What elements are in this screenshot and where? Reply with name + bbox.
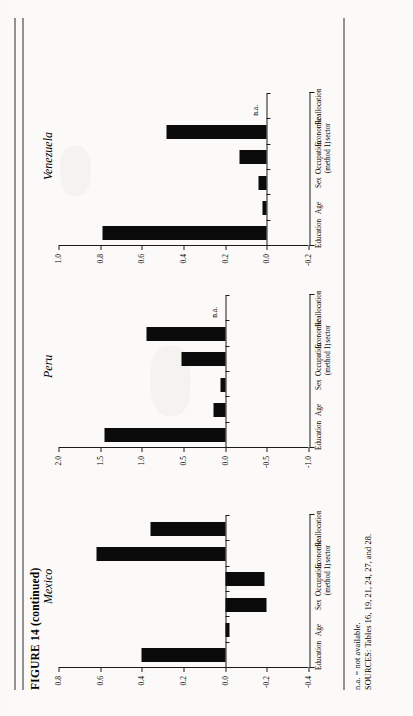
category-axis-bracket bbox=[309, 92, 314, 246]
figure-number: FIGURE 14 bbox=[28, 629, 40, 690]
x-tick bbox=[225, 320, 229, 321]
y-tick-label: 0.2 bbox=[220, 254, 229, 288]
figure-top-rule bbox=[14, 18, 15, 690]
bar-sex bbox=[220, 378, 225, 392]
bar-occupation-method- bbox=[181, 352, 224, 366]
y-tick-label: 0.2 bbox=[178, 676, 187, 710]
bar-education bbox=[102, 226, 267, 240]
x-category-sublabel: sector bbox=[323, 108, 331, 156]
bar-sex bbox=[258, 176, 266, 190]
y-tick-label: 2.0 bbox=[53, 456, 62, 490]
x-category-sublabel: sector bbox=[323, 530, 331, 578]
y-tick-label: 0.6 bbox=[95, 676, 104, 710]
page-title: FIGURE 14 (continued) bbox=[28, 568, 40, 690]
y-tick-label: 0.4 bbox=[136, 676, 145, 710]
na-note: n.a. = not available. bbox=[352, 622, 361, 690]
y-tick-label: -0.2 bbox=[261, 676, 270, 710]
y-tick bbox=[141, 668, 142, 672]
bar-education bbox=[141, 648, 224, 662]
y-tick-label: 1.0 bbox=[136, 456, 145, 490]
chart-title-peru: Peru bbox=[40, 355, 55, 378]
bar-age bbox=[213, 403, 225, 417]
x-tick bbox=[225, 371, 229, 372]
y-tick-label: -0.5 bbox=[261, 456, 270, 490]
x-tick bbox=[225, 591, 229, 592]
y-tick bbox=[225, 246, 226, 250]
scan-smudge bbox=[60, 146, 90, 196]
x-category-label: Reallocation bbox=[314, 505, 322, 553]
y-tick bbox=[308, 668, 309, 672]
y-tick bbox=[183, 246, 184, 250]
y-tick-label: 0.0 bbox=[220, 456, 229, 490]
x-tick bbox=[266, 220, 270, 221]
x-tick bbox=[266, 118, 270, 119]
x-tick bbox=[225, 422, 229, 423]
x-tick bbox=[266, 93, 270, 94]
y-tick-label: 0.0 bbox=[220, 676, 229, 710]
bar-economic-sector bbox=[146, 327, 225, 341]
x-category-label: Reallocation bbox=[314, 83, 322, 131]
y-tick bbox=[266, 668, 267, 672]
bar-occupation-method- bbox=[239, 150, 266, 164]
bar-economic-sector bbox=[96, 547, 225, 561]
x-tick bbox=[225, 396, 229, 397]
x-tick bbox=[225, 667, 229, 668]
y-tick-label: -1.0 bbox=[303, 456, 312, 490]
na-marker: n.a. bbox=[250, 105, 259, 116]
figure-sheet: FIGURE 14 (continued) n.a. = not availab… bbox=[0, 0, 413, 716]
x-tick bbox=[266, 194, 270, 195]
x-tick bbox=[225, 346, 229, 347]
y-tick-label: -0.4 bbox=[303, 676, 312, 710]
y-tick bbox=[308, 246, 309, 250]
figure-bottom-rule bbox=[343, 18, 344, 690]
y-tick-label: 0.8 bbox=[53, 676, 62, 710]
figure-continued-label: (continued) bbox=[28, 568, 40, 626]
x-tick bbox=[225, 295, 229, 296]
chart-title-mexico: Mexico bbox=[40, 569, 55, 604]
sources-note: SOURCES: Tables 16, 19, 21, 24, 27, and … bbox=[363, 534, 372, 690]
x-axis-baseline bbox=[225, 296, 226, 448]
x-tick bbox=[266, 169, 270, 170]
y-tick bbox=[100, 246, 101, 250]
x-tick bbox=[225, 616, 229, 617]
y-tick-label: 0.8 bbox=[95, 254, 104, 288]
y-tick bbox=[183, 668, 184, 672]
x-tick bbox=[225, 515, 229, 516]
bar-occupation-method- bbox=[225, 572, 265, 586]
bar-reallocation bbox=[150, 522, 225, 536]
x-category-label: Reallocation bbox=[314, 285, 322, 333]
x-tick bbox=[225, 566, 229, 567]
y-tick-label: 0.4 bbox=[178, 254, 187, 288]
x-category-sublabel: sector bbox=[323, 310, 331, 358]
y-tick bbox=[100, 448, 101, 452]
x-tick bbox=[266, 144, 270, 145]
y-tick bbox=[225, 448, 226, 452]
y-tick bbox=[58, 448, 59, 452]
x-tick bbox=[225, 642, 229, 643]
x-tick bbox=[225, 540, 229, 541]
bar-economic-sector bbox=[166, 125, 266, 139]
category-axis-bracket bbox=[309, 294, 314, 448]
y-tick-label: 1.5 bbox=[95, 456, 104, 490]
scanned-page: FIGURE 14 (continued) n.a. = not availab… bbox=[0, 0, 413, 716]
na-marker: n.a. bbox=[209, 307, 218, 318]
x-axis-baseline bbox=[225, 516, 226, 668]
y-tick bbox=[141, 246, 142, 250]
y-tick-label: 1.0 bbox=[53, 254, 62, 288]
x-tick bbox=[225, 447, 229, 448]
y-tick bbox=[183, 448, 184, 452]
y-tick bbox=[266, 448, 267, 452]
x-axis-baseline bbox=[266, 94, 267, 246]
x-tick bbox=[266, 245, 270, 246]
category-axis-bracket bbox=[309, 514, 314, 668]
y-tick bbox=[100, 668, 101, 672]
bar-education bbox=[104, 428, 225, 442]
bar-sex bbox=[225, 598, 267, 612]
y-tick-label: 0.6 bbox=[136, 254, 145, 288]
y-tick-label: 0.0 bbox=[261, 254, 270, 288]
y-tick bbox=[225, 668, 226, 672]
bar-age bbox=[262, 201, 266, 215]
y-tick bbox=[308, 448, 309, 452]
y-tick bbox=[58, 246, 59, 250]
y-tick bbox=[266, 246, 267, 250]
